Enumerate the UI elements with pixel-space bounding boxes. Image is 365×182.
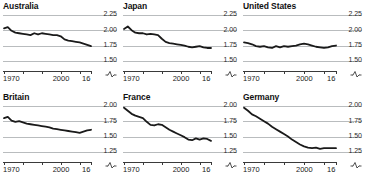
chart-panel-germany: Germany2.001.751.501.251970200016 bbox=[240, 91, 365, 182]
x-axis-tick bbox=[162, 162, 163, 165]
axis-break-icon bbox=[105, 64, 117, 73]
x-axis-tick bbox=[200, 162, 201, 165]
series-line bbox=[123, 13, 212, 67]
x-axis-tick-label: 2000 bbox=[296, 166, 313, 174]
plot-area: 2.252.001.751.50 bbox=[243, 13, 337, 67]
y-axis-tick-label: 1.50 bbox=[223, 132, 237, 139]
x-axis-tick-label: 1970 bbox=[243, 166, 260, 174]
chart-panel-britain: Britain2.001.751.501.251970200016 bbox=[0, 91, 120, 182]
y-axis-tick-label: 2.00 bbox=[103, 26, 117, 33]
y-axis-tick-label: 1.75 bbox=[223, 117, 237, 124]
y-axis-tick-label: 2.25 bbox=[223, 10, 237, 17]
plot-area: 2.001.751.501.25 bbox=[3, 104, 92, 158]
axis-break-icon bbox=[350, 155, 362, 164]
y-axis-tick-label: 1.75 bbox=[348, 41, 362, 48]
x-axis-tick-label: 16 bbox=[327, 166, 335, 174]
x-axis-tick-label: 16 bbox=[202, 75, 210, 83]
x-axis-tick-label: 16 bbox=[82, 75, 90, 83]
x-axis-tick bbox=[23, 71, 24, 74]
y-axis-tick-label: 1.75 bbox=[103, 41, 117, 48]
y-axis-tick-label: 1.75 bbox=[348, 117, 362, 124]
y-axis-tick-label: 1.50 bbox=[348, 132, 362, 139]
plot-area: 2.252.001.751.50 bbox=[123, 13, 212, 67]
y-axis-tick-label: 1.75 bbox=[103, 117, 117, 124]
x-axis-tick bbox=[91, 71, 92, 74]
x-axis-tick-label: 1970 bbox=[3, 75, 20, 83]
x-axis-line bbox=[3, 162, 92, 163]
x-axis-line bbox=[3, 71, 92, 72]
x-axis-tick bbox=[264, 71, 265, 74]
x-axis-tick bbox=[324, 71, 325, 74]
x-axis-tick bbox=[336, 162, 337, 165]
y-axis-tick-label: 2.00 bbox=[223, 101, 237, 108]
series-line bbox=[243, 13, 337, 67]
y-axis-tick-label: 1.50 bbox=[223, 56, 237, 63]
y-axis-tick-label: 1.50 bbox=[103, 132, 117, 139]
x-axis-tick bbox=[143, 71, 144, 74]
panel-title: Germany bbox=[243, 92, 279, 102]
y-axis-tick-label: 2.25 bbox=[103, 10, 117, 17]
y-axis-tick-label: 2.00 bbox=[348, 101, 362, 108]
x-axis-tick bbox=[336, 71, 337, 74]
y-axis-tick-label: 2.00 bbox=[223, 26, 237, 33]
x-axis-tick-label: 1970 bbox=[3, 166, 20, 174]
x-axis-tick-label: 16 bbox=[82, 166, 90, 174]
x-axis-tick-label: 2000 bbox=[53, 166, 70, 174]
plot-area: 2.001.751.501.25 bbox=[243, 104, 337, 158]
y-axis-tick-label: 2.00 bbox=[348, 26, 362, 33]
series-line bbox=[123, 104, 212, 158]
y-axis-tick-label: 2.00 bbox=[103, 101, 117, 108]
small-multiples-chart-grid: Australia2.252.001.751.501970200016Japan… bbox=[0, 0, 365, 182]
x-axis-tick bbox=[324, 162, 325, 165]
x-axis-tick-label: 2000 bbox=[173, 166, 190, 174]
plot-area: 2.001.751.501.25 bbox=[123, 104, 212, 158]
x-axis-tick bbox=[284, 162, 285, 165]
x-axis-line bbox=[243, 71, 337, 72]
x-axis-tick bbox=[80, 71, 81, 74]
x-axis-tick bbox=[42, 162, 43, 165]
panel-title: Britain bbox=[3, 92, 29, 102]
x-axis-tick bbox=[162, 71, 163, 74]
x-axis-tick bbox=[211, 71, 212, 74]
x-axis-line bbox=[123, 162, 212, 163]
panel-title: Australia bbox=[3, 1, 38, 11]
x-axis-tick bbox=[284, 71, 285, 74]
x-axis-tick-label: 16 bbox=[202, 166, 210, 174]
axis-break-icon bbox=[350, 64, 362, 73]
series-line bbox=[243, 104, 337, 158]
panel-title: Japan bbox=[123, 1, 147, 11]
x-axis-tick bbox=[264, 162, 265, 165]
y-axis-tick-label: 1.75 bbox=[223, 41, 237, 48]
x-axis-tick-label: 1970 bbox=[123, 166, 140, 174]
panel-title: France bbox=[123, 92, 150, 102]
x-axis-tick bbox=[200, 71, 201, 74]
x-axis-tick bbox=[42, 71, 43, 74]
axis-break-icon bbox=[225, 64, 237, 73]
series-line bbox=[3, 13, 92, 67]
x-axis-tick bbox=[143, 162, 144, 165]
x-axis-line bbox=[123, 71, 212, 72]
axis-break-icon bbox=[105, 155, 117, 164]
plot-area: 2.252.001.751.50 bbox=[3, 13, 92, 67]
series-line bbox=[3, 104, 92, 158]
y-axis-tick-label: 1.50 bbox=[348, 56, 362, 63]
x-axis-line bbox=[243, 162, 337, 163]
x-axis-tick-label: 1970 bbox=[243, 75, 260, 83]
x-axis-tick-label: 1970 bbox=[123, 75, 140, 83]
x-axis-tick bbox=[23, 162, 24, 165]
chart-panel-australia: Australia2.252.001.751.501970200016 bbox=[0, 0, 120, 91]
y-axis-tick-label: 1.25 bbox=[103, 147, 117, 154]
chart-panel-france: France2.001.751.501.251970200016 bbox=[120, 91, 240, 182]
chart-panel-united-states: United States2.252.001.751.501970200016 bbox=[240, 0, 365, 91]
axis-break-icon bbox=[225, 155, 237, 164]
y-axis-tick-label: 1.25 bbox=[348, 147, 362, 154]
x-axis-tick-label: 16 bbox=[327, 75, 335, 83]
chart-panel-japan: Japan2.252.001.751.501970200016 bbox=[120, 0, 240, 91]
panel-title: United States bbox=[243, 1, 296, 11]
x-axis-tick-label: 2000 bbox=[53, 75, 70, 83]
x-axis-tick bbox=[91, 162, 92, 165]
y-axis-tick-label: 2.25 bbox=[348, 10, 362, 17]
y-axis-tick-label: 1.25 bbox=[223, 147, 237, 154]
x-axis-tick-label: 2000 bbox=[296, 75, 313, 83]
x-axis-tick bbox=[80, 162, 81, 165]
